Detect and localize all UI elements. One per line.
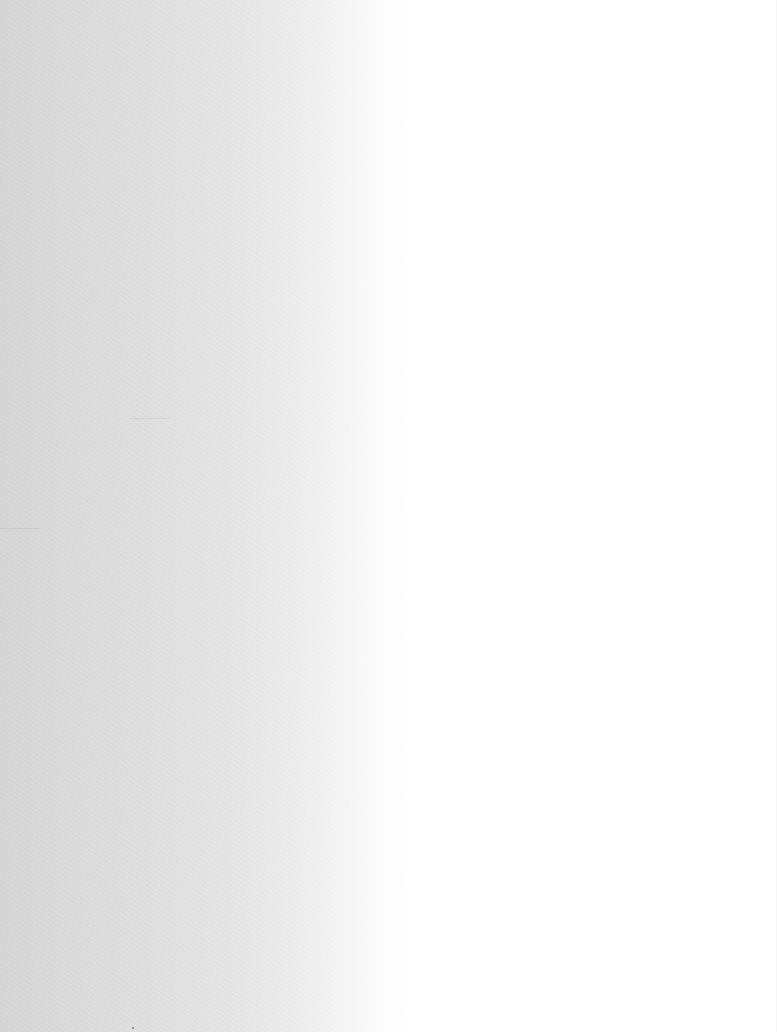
faint-rule-mark bbox=[130, 418, 170, 419]
faint-rule-mark bbox=[0, 528, 40, 529]
blank-paper-sheet bbox=[0, 0, 777, 1032]
dust-speck bbox=[132, 1027, 134, 1029]
paper-texture bbox=[0, 0, 420, 1032]
